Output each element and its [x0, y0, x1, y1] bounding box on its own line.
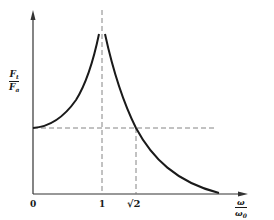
- y-axis-arrow-icon: [31, 10, 36, 20]
- x-label-denominator: ω0: [235, 209, 247, 219]
- x-axis-arrow-icon: [238, 192, 248, 197]
- y-label-denominator: Fa: [9, 83, 19, 93]
- y-axis-label: Ft Fa: [9, 70, 19, 93]
- curve-right-branch: [105, 34, 219, 193]
- x-label-den-text: ω: [235, 208, 243, 218]
- y-label-den-sub: a: [15, 86, 19, 93]
- x-tick-0: 0: [30, 200, 36, 209]
- diagram-canvas: [0, 0, 274, 220]
- curve-left-branch: [33, 34, 99, 128]
- x-tick-1: 1: [99, 200, 105, 209]
- x-tick-sqrt2: √2: [127, 199, 141, 209]
- x-label-numerator: ω: [237, 198, 245, 206]
- y-label-num-sub: t: [16, 73, 19, 80]
- y-label-numerator: Ft: [10, 70, 19, 80]
- x-label-den-sub: 0: [243, 212, 247, 219]
- x-axis-label: ω ω0: [235, 198, 247, 219]
